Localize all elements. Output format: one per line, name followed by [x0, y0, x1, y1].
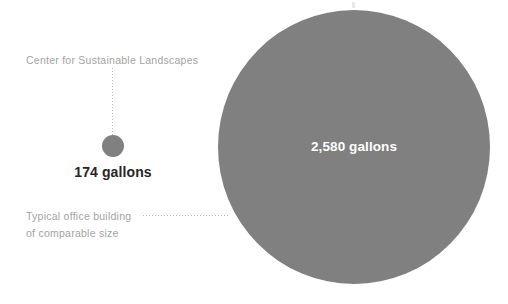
- leader-line-horizontal-dotted: [143, 215, 229, 216]
- value-label-center-for-sustainable-landscapes: 174 gallons: [33, 163, 193, 181]
- caption-line-1: Typical office building: [26, 210, 131, 222]
- caption-center-for-sustainable-landscapes: Center for Sustainable Landscapes: [26, 52, 198, 68]
- caption-line-2: of comparable size: [26, 227, 119, 239]
- top-edge-artifact: [352, 2, 355, 8]
- clipped-edge-text-fragment: l: [0, 136, 4, 151]
- leader-line-vertical-dotted: [112, 68, 113, 136]
- value-label-typical-office-building: 2,580 gallons: [218, 139, 490, 155]
- caption-typical-office-building: Typical office building of comparable si…: [26, 208, 146, 242]
- infographic-canvas: l 2,580 gallons 174 gallons Center for S…: [0, 0, 508, 304]
- bubble-center-for-sustainable-landscapes: [102, 135, 124, 157]
